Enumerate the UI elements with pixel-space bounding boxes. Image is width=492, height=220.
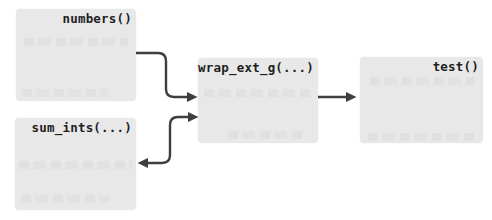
ghost-text (204, 89, 310, 97)
ghost-text (19, 161, 132, 169)
node-numbers: numbers() (16, 9, 136, 101)
node-wrap-ext-g: wrap_ext_g(...) (198, 58, 318, 143)
ghost-text (22, 89, 108, 97)
edge-line (148, 117, 188, 163)
node-numbers-label: numbers() (16, 9, 136, 26)
ghost-text (370, 77, 475, 85)
node-sum-ints-label: sum_ints(...) (15, 118, 136, 135)
node-sum-ints: sum_ints(...) (15, 118, 136, 210)
edge-line (136, 53, 187, 97)
node-test: test() (360, 57, 483, 143)
arrowhead-icon (138, 158, 149, 168)
arrowhead-icon (346, 92, 357, 102)
arrowhead-icon (187, 92, 198, 102)
ghost-text (21, 195, 110, 203)
edge-wrap-sumints-bidirectional (138, 112, 199, 168)
call-graph-diagram: numbers() sum_ints(...) wrap_ext_g(...) … (0, 0, 492, 220)
ghost-text (24, 38, 128, 46)
edge-numbers-to-wrap (136, 53, 198, 102)
node-wrap-ext-g-label: wrap_ext_g(...) (198, 58, 318, 75)
node-test-label: test() (360, 57, 483, 74)
ghost-text (368, 133, 475, 141)
ghost-text (228, 131, 306, 139)
edge-wrap-to-test (318, 92, 357, 102)
arrowhead-icon (188, 112, 199, 122)
